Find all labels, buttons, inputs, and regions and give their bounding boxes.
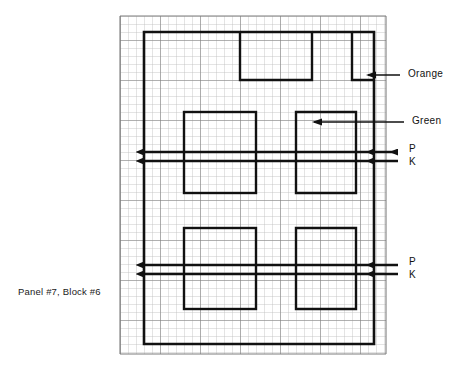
diagram-canvas: Orange Green P K P K Panel #7, Block #6 — [0, 0, 468, 378]
label-p-lower: P — [409, 256, 416, 267]
label-k-upper: K — [409, 156, 416, 167]
label-k-lower: K — [409, 269, 416, 280]
label-green: Green — [412, 115, 441, 126]
figure-caption: Panel #7, Block #6 — [18, 286, 101, 297]
panel-schematic-svg — [0, 0, 468, 378]
graph-paper-grid — [120, 16, 386, 354]
label-p-upper: P — [409, 143, 416, 154]
label-orange: Orange — [408, 68, 443, 79]
